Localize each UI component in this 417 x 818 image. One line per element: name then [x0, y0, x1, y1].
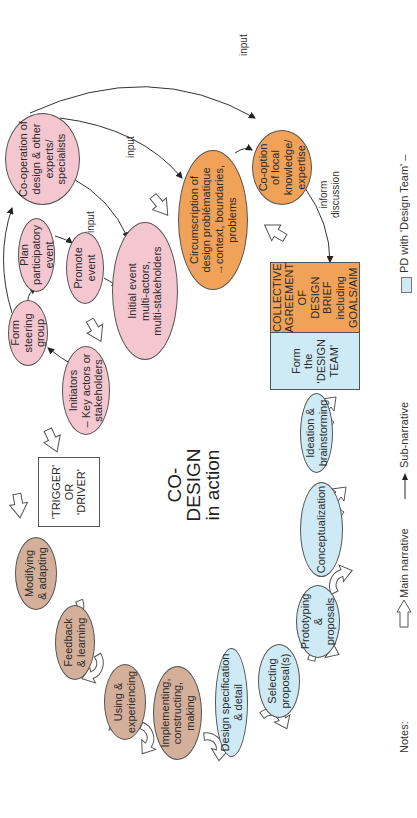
node-using: Using & experiencing: [104, 664, 146, 740]
node-label: Circumscription of design problématique …: [186, 161, 241, 279]
node-initiators: Initiators – Key actors or stakeholders: [62, 346, 110, 435]
edge-label-input: input: [125, 136, 137, 158]
node-prototyping: Prototyping & proposals: [296, 585, 340, 658]
diagram-stage: Co-operation of design & other experts/ …: [0, 0, 417, 818]
node-conceptualization: Conceptualization: [300, 482, 343, 577]
node-form-steering: Form steering group: [8, 300, 48, 366]
node-label: Implementing, constructing, making: [157, 674, 199, 751]
node-label: Using & experiencing: [110, 667, 139, 737]
collective-agreement: COLLECTIVE AGREEMENT OF DESIGN BRIEF inc…: [271, 263, 359, 332]
node-label: Initial event multi-actors, multi-stakeh…: [124, 242, 166, 339]
diagram-title: CO-DESIGN in action: [165, 442, 222, 528]
legend-main-narrative: Main narrative: [398, 528, 410, 598]
form-design-team: Form the 'DESIGN TEAM': [271, 332, 359, 389]
node-label: Ideation & brainstorming: [302, 396, 331, 471]
node-label: Prototyping & proposals: [297, 586, 339, 657]
node-implementing: Implementing, constructing, making: [153, 666, 202, 760]
edge-label-input: input: [238, 34, 250, 56]
legend-blue-swatch: [401, 277, 412, 293]
edge-label-inform: inform discussion: [318, 171, 341, 218]
node-label: Co-option of local knowledge/ expertise: [255, 136, 310, 200]
node-circumscription: Circumscription of design problématique …: [178, 150, 248, 290]
node-cooption: Co-option of local knowledge/ expertise: [252, 130, 312, 205]
legend-pd-design-team: PD with 'Design Team' –: [398, 155, 410, 273]
node-plan-event: Plan participatory event: [18, 218, 55, 292]
co-design-diagram: Co-operation of design & other experts/ …: [0, 0, 417, 818]
legend-sub-narrative: Sub-narrative: [398, 402, 410, 468]
node-label: Co-operation of design & other experts/ …: [15, 117, 70, 201]
node-promote-event: Promote event: [66, 232, 104, 304]
node-label: Modifying & adapting: [21, 543, 50, 604]
node-modifying: Modifying & adapting: [15, 537, 57, 610]
node-design-spec: Design specification & detail: [215, 648, 248, 757]
node-ideation: Ideation & brainstorming: [300, 393, 333, 473]
node-label: COLLECTIVE AGREEMENT OF DESIGN BRIEF inc…: [271, 263, 359, 332]
node-label: 'TRIGGER' OR 'DRIVER': [48, 461, 90, 523]
node-feedback: Feedback & learning: [55, 605, 95, 680]
legend-main-arrow-icon: [396, 598, 412, 628]
node-label: Conceptualization: [313, 482, 330, 577]
trigger-box: 'TRIGGER' OR 'DRIVER': [38, 457, 100, 527]
design-brief-box: Form the 'DESIGN TEAM' COLLECTIVE AGREEM…: [270, 262, 360, 390]
node-label: Initiators – Key actors or stakeholders: [65, 350, 107, 432]
node-initial-event: Initial event multi-actors, multi-stakeh…: [112, 222, 178, 360]
legend-notes: Notes:: [398, 721, 410, 753]
node-label: Feedback & learning: [60, 614, 89, 672]
legend-sub-arrow-icon: [400, 472, 410, 500]
title-line-1: CO-DESIGN: [165, 442, 203, 528]
node-selecting: Selecting proposal(s): [258, 644, 300, 718]
node-label: Selecting proposal(s): [264, 649, 293, 712]
node-cooperation: Co-operation of design & other experts/ …: [5, 113, 80, 205]
node-label: Form the 'DESIGN TEAM': [290, 339, 341, 383]
node-label: Form steering group: [7, 309, 49, 356]
title-line-2: in action: [203, 442, 222, 528]
node-label: Promote event: [70, 243, 99, 293]
node-label: Plan participatory event: [16, 221, 58, 289]
node-label: Design specification & detail: [217, 650, 246, 756]
edge-label-input: input: [85, 211, 97, 233]
